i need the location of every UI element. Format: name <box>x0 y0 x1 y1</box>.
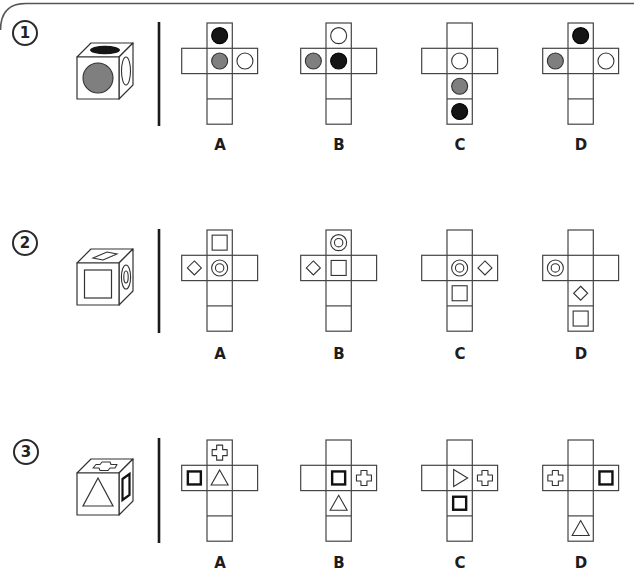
square-icon <box>573 311 588 326</box>
net-3d[interactable] <box>543 440 619 541</box>
ring-inner-icon <box>551 264 559 272</box>
net-arm <box>301 465 377 490</box>
diamond-icon <box>306 261 320 275</box>
diamond-icon <box>574 286 588 300</box>
cross-icon <box>356 470 371 485</box>
option-3b-label[interactable]: B <box>324 554 354 572</box>
option-2a-label[interactable]: A <box>205 345 235 363</box>
black-circle-icon <box>331 53 347 69</box>
white-circle-icon <box>331 28 347 44</box>
puzzle-sheet: 1 2 3 A B C D A B C D A B C D <box>0 0 634 579</box>
ring-outer-icon <box>212 260 228 276</box>
ring-outer-icon <box>547 260 563 276</box>
diamond-icon <box>478 261 492 275</box>
ring-outer-icon <box>331 235 347 251</box>
net-arm <box>182 255 258 280</box>
ring-inner-icon <box>215 264 223 272</box>
white-circle-icon <box>237 53 253 69</box>
cross-icon <box>548 470 563 485</box>
triangle-right-icon <box>454 469 468 486</box>
square-icon <box>452 286 467 301</box>
cross-icon <box>477 470 492 485</box>
option-3a-label[interactable]: A <box>205 554 235 572</box>
front-gray-circle-icon <box>83 63 113 93</box>
net-2a[interactable] <box>182 230 258 331</box>
option-1d-label[interactable]: D <box>566 136 596 154</box>
black-circle-icon <box>573 28 589 44</box>
gray-circle-icon <box>212 53 228 69</box>
option-1c-label[interactable]: C <box>445 136 475 154</box>
cube-front-face <box>77 473 119 515</box>
cross-icon <box>212 445 227 460</box>
net-2c[interactable] <box>422 230 498 331</box>
option-3d-label[interactable]: D <box>566 554 596 572</box>
net-3b[interactable] <box>301 440 377 541</box>
net-arm <box>543 465 619 490</box>
bold-square-icon <box>188 471 201 484</box>
diamond-icon <box>187 261 201 275</box>
square-icon <box>212 235 227 250</box>
bold-square-icon <box>332 471 345 484</box>
net-1d[interactable] <box>543 23 619 124</box>
net-1b[interactable] <box>301 23 377 124</box>
net-arm <box>301 255 377 280</box>
net-arm <box>422 255 498 280</box>
option-2b-label[interactable]: B <box>324 345 354 363</box>
option-3c-label[interactable]: C <box>445 554 475 572</box>
black-circle-icon <box>212 28 228 44</box>
triangle-icon <box>330 495 347 510</box>
question-number-1: 1 <box>12 20 38 46</box>
reference-cube-1 <box>77 43 133 99</box>
top-black-ellipse-icon <box>90 46 120 55</box>
question-number-3: 3 <box>13 439 39 465</box>
right-white-ellipse-icon <box>122 57 131 85</box>
ring-outer-icon <box>452 260 468 276</box>
question-number-2: 2 <box>12 230 38 256</box>
option-1a-label[interactable]: A <box>205 136 235 154</box>
net-2d[interactable] <box>543 230 619 331</box>
net-arm <box>422 465 498 490</box>
reference-cube-3 <box>77 459 133 515</box>
triangle-icon <box>572 521 589 536</box>
net-3a[interactable] <box>182 440 258 541</box>
gray-circle-icon <box>547 53 563 69</box>
square-icon <box>331 260 346 275</box>
white-circle-icon <box>452 53 468 69</box>
ring-inner-icon <box>455 264 463 272</box>
bold-square-icon <box>599 471 612 484</box>
bold-square-icon <box>453 497 466 510</box>
triangle-icon <box>211 470 228 485</box>
sheet-border <box>1 4 634 31</box>
net-1a[interactable] <box>182 23 258 124</box>
ring-inner-icon <box>334 238 342 246</box>
black-circle-icon <box>452 104 468 120</box>
net-3c[interactable] <box>422 440 498 541</box>
net-2b[interactable] <box>301 230 377 331</box>
net-arm <box>543 255 619 280</box>
option-1b-label[interactable]: B <box>324 136 354 154</box>
option-2c-label[interactable]: C <box>445 345 475 363</box>
white-circle-icon <box>598 53 614 69</box>
gray-circle-icon <box>305 53 321 69</box>
net-1c[interactable] <box>422 23 498 124</box>
puzzle-artwork <box>0 0 634 579</box>
gray-circle-icon <box>452 78 468 94</box>
cube-front-face <box>77 263 119 305</box>
reference-cube-2 <box>77 249 133 305</box>
option-2d-label[interactable]: D <box>566 345 596 363</box>
